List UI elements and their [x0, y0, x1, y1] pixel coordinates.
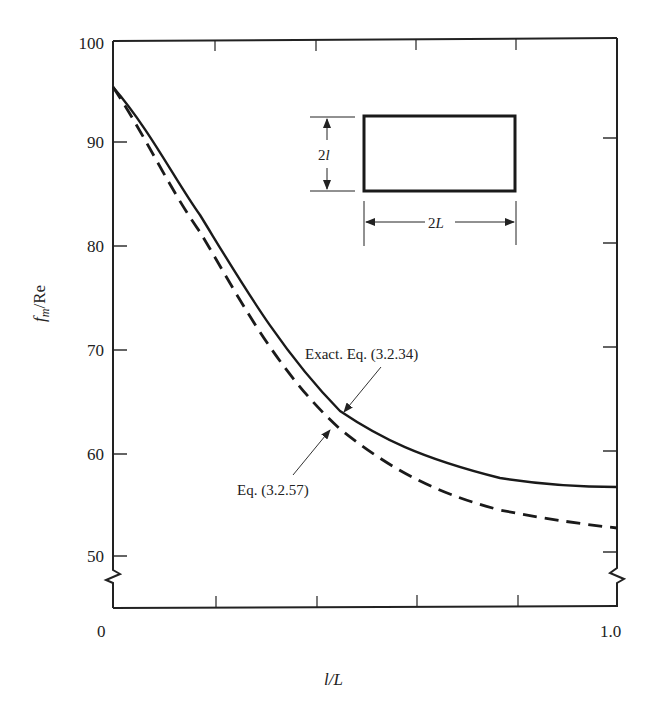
- y-tick-50: 50: [87, 547, 104, 566]
- inset-width-label: 2L: [428, 215, 444, 231]
- chart-canvas: 100 90 80 70 60 50 0 1.0 l/L fm/Re Exact…: [0, 0, 665, 707]
- y-ticks-left: [113, 142, 127, 556]
- x-tick-1: 1.0: [600, 622, 621, 641]
- inset-height-label: 2l: [318, 147, 330, 163]
- annotation-exact-arrow: [344, 367, 381, 412]
- annotation-exact-label: Exact. Eq. (3.2.34): [305, 346, 418, 363]
- y-axis-title-rest: /Re: [30, 285, 49, 309]
- y-ticks-right: [603, 138, 617, 552]
- annotation-approx-label: Eq. (3.2.57): [237, 482, 309, 499]
- y-tick-labels: 100 90 80 70 60 50: [79, 34, 105, 566]
- y-tick-70: 70: [87, 341, 104, 360]
- inset-rectangle-diagram: 2l 2L: [310, 116, 516, 246]
- y-tick-60: 60: [87, 445, 104, 464]
- y-axis-title: fm/Re: [30, 285, 52, 322]
- svg-text:fm/Re: fm/Re: [30, 285, 52, 322]
- x-tick-0: 0: [97, 622, 106, 641]
- x-ticks-bottom: [216, 595, 518, 607]
- annotation-approx-arrow: [293, 430, 330, 475]
- x-axis-title: l/L: [324, 670, 343, 689]
- y-tick-100: 100: [79, 34, 105, 53]
- inset-rectangle: [364, 116, 515, 191]
- y-tick-90: 90: [87, 133, 104, 152]
- y-axis-title-sub: m: [38, 308, 52, 317]
- y-tick-80: 80: [87, 237, 104, 256]
